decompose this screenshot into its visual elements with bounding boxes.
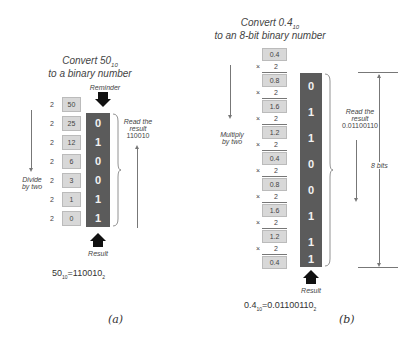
quotient-box: 3 [62, 173, 81, 188]
times-icon: × [256, 193, 260, 200]
equation-a: 5010=1100102 [52, 268, 105, 280]
bit: 1 [300, 132, 322, 144]
reminder-arrow-icon [98, 92, 108, 99]
read-arrow-line [137, 148, 138, 228]
multiplier: 2 [274, 219, 278, 226]
multiplier: 2 [274, 115, 278, 122]
divide-label: Divideby two [14, 176, 50, 190]
result-arrowhead-icon [303, 270, 319, 278]
quotient-box: 50 [62, 97, 81, 112]
panel-b-title: Convert 0.410 to an 8-bit binary number [210, 17, 330, 41]
times-icon: × [256, 167, 260, 174]
divider [262, 72, 287, 73]
read-arrow-line [356, 140, 357, 198]
up-arrow-icon [135, 145, 139, 149]
panel-a-title: Convert 5010 to a binary number [35, 55, 145, 79]
result-arrow-icon [93, 241, 103, 247]
bit: 1 [86, 212, 110, 224]
product-box: 1.2 [262, 126, 287, 139]
divisor: 2 [50, 177, 54, 184]
divisor: 2 [50, 139, 54, 146]
times-icon: × [256, 89, 260, 96]
quotient-box: 1 [62, 192, 81, 207]
divisor: 2 [50, 120, 54, 127]
multiplier: 2 [274, 167, 278, 174]
binary-conversion-figure: Convert 5010 to a binary number Reminder… [0, 0, 415, 339]
bit: 1 [300, 210, 322, 222]
dimension-line [379, 75, 380, 265]
bit: 1 [300, 236, 322, 248]
divider [262, 150, 287, 151]
product-box: 0.4 [262, 152, 287, 165]
multiplier: 2 [274, 245, 278, 252]
divider [262, 176, 287, 177]
divisor: 2 [50, 158, 54, 165]
result-label: Result [291, 287, 331, 294]
divisor: 2 [50, 215, 54, 222]
bit: 0 [300, 80, 322, 92]
bit: 0 [86, 155, 110, 167]
product-box: 0.4 [262, 256, 287, 269]
read-result-label: Read theresult 110010 [118, 118, 158, 139]
quotient-box: 0 [62, 211, 81, 226]
divider [262, 202, 287, 203]
reminder-label: Reminder [80, 84, 130, 91]
divisor: 2 [50, 196, 54, 203]
divider [262, 124, 287, 125]
quotient-box: 25 [62, 116, 81, 131]
product-box: 0.8 [262, 74, 287, 87]
divider [262, 228, 287, 229]
product-box: 1.6 [262, 204, 287, 217]
quotient-box: 12 [62, 135, 81, 150]
bit: 0 [300, 158, 322, 170]
bit: 1 [300, 253, 322, 265]
bits-label: 8 bits [370, 162, 389, 169]
caption-b: (b) [339, 313, 355, 326]
result-arrow-icon [306, 278, 316, 284]
down-arrow-icon [354, 198, 358, 202]
product-box: 1.6 [262, 100, 287, 113]
bit: 0 [300, 184, 322, 196]
down-arrow-icon [228, 115, 232, 119]
result-arrowhead-icon [90, 233, 106, 241]
dimension-top-line [358, 72, 398, 73]
down-arrow-icon [377, 263, 381, 267]
bit: 0 [86, 174, 110, 186]
quotient-box: 6 [62, 154, 81, 169]
divider [262, 98, 287, 99]
multiplier: 2 [274, 89, 278, 96]
integer-bit-column: 0 1 1 0 0 1 1 1 [300, 73, 322, 267]
product-box: 1.2 [262, 230, 287, 243]
up-arrow-icon [377, 74, 381, 78]
bit: 1 [300, 106, 322, 118]
equation-b: 0.410=0.011001102 [244, 300, 316, 312]
bit: 0 [86, 117, 110, 129]
times-icon: × [256, 245, 260, 252]
brace-icon [324, 73, 334, 267]
down-arrow-icon [29, 168, 33, 172]
divider [262, 254, 287, 255]
multiply-label: Multiplyby two [212, 131, 252, 145]
reminder-arrowhead-icon [95, 99, 111, 107]
divisor: 2 [50, 101, 54, 108]
multiplier: 2 [274, 193, 278, 200]
times-icon: × [256, 115, 260, 122]
multiply-arrow-line [230, 65, 231, 117]
multiplier: 2 [274, 141, 278, 148]
multiplier: 2 [274, 63, 278, 70]
times-icon: × [256, 141, 260, 148]
remainder-bit-column: 0 1 0 0 1 1 [86, 113, 110, 227]
times-icon: × [256, 63, 260, 70]
product-box: 0.4 [262, 48, 287, 61]
dimension-bottom-line [358, 267, 398, 268]
caption-a: (a) [108, 313, 123, 326]
product-box: 0.8 [262, 178, 287, 191]
result-label: Result [78, 250, 118, 257]
divide-arrow-line [31, 110, 32, 170]
times-icon: × [256, 219, 260, 226]
bit: 1 [86, 193, 110, 205]
bit: 1 [86, 136, 110, 148]
read-result-label: Read theresult 0.01100110 [335, 108, 385, 129]
